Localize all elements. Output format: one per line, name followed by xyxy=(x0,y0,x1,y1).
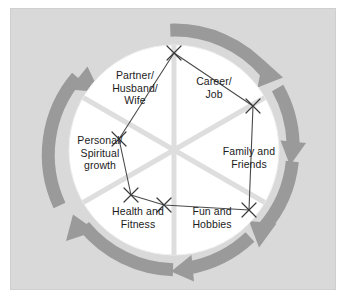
label-fun-hobbies: Fun and Hobbies xyxy=(179,205,245,230)
figure-canvas: Career/ Job Family and Friends Fun and H… xyxy=(10,8,336,290)
label-career-job: Career/ Job xyxy=(183,75,245,100)
wheel-of-life-figure: Career/ Job Family and Friends Fun and H… xyxy=(0,0,346,307)
label-family-friends: Family and Friends xyxy=(211,145,287,170)
wheel-diagram xyxy=(11,9,337,291)
label-health-fitness: Health and Fitness xyxy=(99,205,177,230)
label-personal-spiritual-growth: Personal/ Spiritual growth xyxy=(64,134,136,172)
label-partner-husband-wife: Partner/ Husband/ Wife xyxy=(99,69,171,107)
